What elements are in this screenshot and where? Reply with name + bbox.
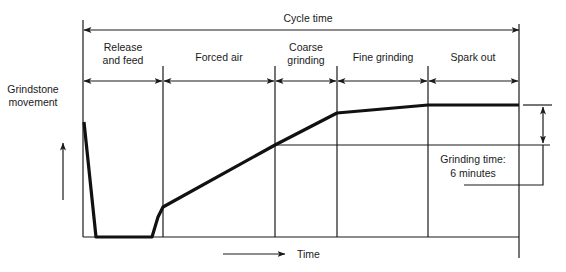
y-axis-label-2: movement (8, 96, 57, 108)
cycle-time-label: Cycle time (283, 12, 332, 24)
phase-label-coarse-2: grinding (287, 54, 325, 66)
phase-label-release: Release (104, 41, 143, 53)
phase-label-coarse: Coarse (289, 41, 323, 53)
y-axis-label: Grindstone (7, 83, 59, 95)
grinding-time-value: 6 minutes (450, 167, 496, 179)
phase-label-forced-air: Forced air (195, 51, 243, 63)
phase-label-fine-grinding: Fine grinding (353, 51, 414, 63)
phase-label-spark-out: Spark out (451, 51, 496, 63)
phase-label-release-2: and feed (103, 54, 144, 66)
x-axis-label: Time (297, 248, 320, 260)
grinding-cycle-diagram: Cycle time Release and feed Forced air C… (0, 0, 566, 272)
grinding-time-label: Grinding time: (440, 153, 505, 165)
grinding-time-leader-line (464, 145, 543, 185)
